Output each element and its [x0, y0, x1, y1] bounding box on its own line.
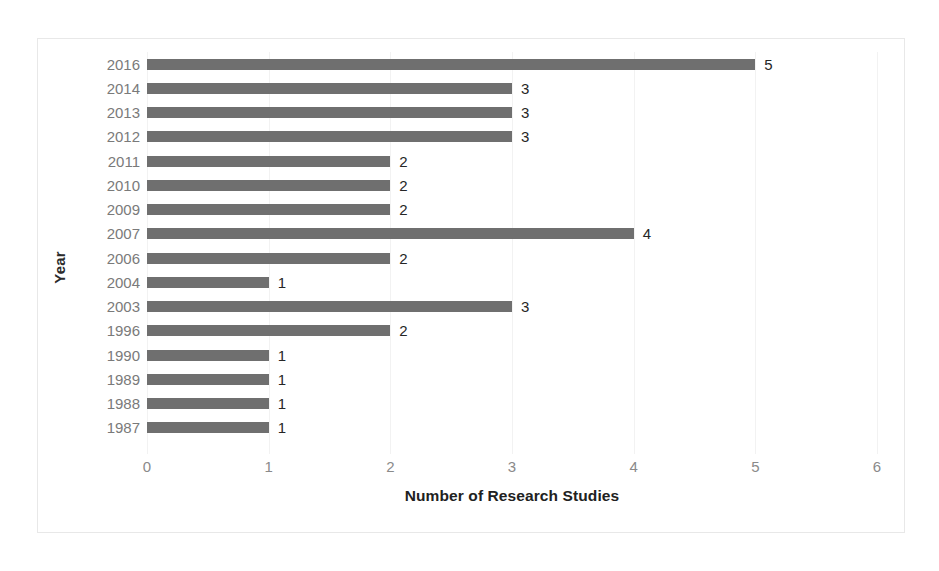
- bar-row: 2: [147, 149, 877, 173]
- y-tick-label: 2006: [60, 246, 140, 270]
- bar: [147, 107, 512, 118]
- bar-row: 1: [147, 392, 877, 416]
- bar-row: 3: [147, 76, 877, 100]
- bar-value-label: 2: [399, 202, 407, 217]
- bar: [147, 398, 269, 409]
- bar-value-label: 1: [278, 372, 286, 387]
- y-tick-label: 2007: [60, 222, 140, 246]
- y-tick-label: 2009: [60, 198, 140, 222]
- y-tick-label: 2016: [60, 52, 140, 76]
- bar-value-label: 3: [521, 81, 529, 96]
- y-tick-label: 2003: [60, 295, 140, 319]
- bar-row: 2: [147, 246, 877, 270]
- plot-area: 5333222421321111: [147, 52, 877, 454]
- bar-row: 2: [147, 173, 877, 197]
- bar-row: 2: [147, 198, 877, 222]
- bar-row: 3: [147, 101, 877, 125]
- bar-value-label: 3: [521, 105, 529, 120]
- bar: [147, 131, 512, 142]
- y-axis-tick-labels: 2016201420132012201120102009200720062004…: [60, 52, 140, 454]
- bar: [147, 83, 512, 94]
- x-axis-tick-labels: 0123456: [147, 458, 877, 482]
- y-tick-label: 2004: [60, 270, 140, 294]
- bar-row: 1: [147, 416, 877, 440]
- bar-value-label: 4: [643, 226, 651, 241]
- bar: [147, 156, 390, 167]
- bar: [147, 253, 390, 264]
- x-tick-label: 4: [614, 458, 654, 475]
- bar-row: 5: [147, 52, 877, 76]
- y-tick-label: 1990: [60, 343, 140, 367]
- bar-value-label: 2: [399, 154, 407, 169]
- x-tick-label: 1: [249, 458, 289, 475]
- bar: [147, 301, 512, 312]
- y-tick-label: 2011: [60, 149, 140, 173]
- bar-value-label: 1: [278, 348, 286, 363]
- bar-row: 3: [147, 295, 877, 319]
- x-tick-label: 0: [127, 458, 167, 475]
- bar: [147, 277, 269, 288]
- x-axis-title: Number of Research Studies: [147, 487, 877, 505]
- bar-row: 3: [147, 125, 877, 149]
- y-tick-label: 2010: [60, 173, 140, 197]
- bar-row: 1: [147, 343, 877, 367]
- x-tick-label: 3: [492, 458, 532, 475]
- y-tick-label: 1996: [60, 319, 140, 343]
- gridline-6: [877, 52, 878, 454]
- bar-value-label: 1: [278, 420, 286, 435]
- bar-row: 2: [147, 319, 877, 343]
- bar-row: 1: [147, 367, 877, 391]
- bar-value-label: 2: [399, 251, 407, 266]
- bar-row: 4: [147, 222, 877, 246]
- bar: [147, 325, 390, 336]
- x-tick-label: 6: [857, 458, 897, 475]
- y-tick-label: 1987: [60, 416, 140, 440]
- bar: [147, 180, 390, 191]
- bar-value-label: 2: [399, 323, 407, 338]
- bar-chart: Year 5333222421321111 201620142013201220…: [0, 0, 939, 571]
- x-tick-label: 5: [735, 458, 775, 475]
- bar: [147, 422, 269, 433]
- bar-value-label: 1: [278, 275, 286, 290]
- bar-value-label: 3: [521, 299, 529, 314]
- bar: [147, 204, 390, 215]
- y-tick-label: 1989: [60, 367, 140, 391]
- bar-value-label: 2: [399, 178, 407, 193]
- bar-value-label: 5: [764, 57, 772, 72]
- y-tick-label: 2013: [60, 101, 140, 125]
- bar-value-label: 1: [278, 396, 286, 411]
- x-tick-label: 2: [370, 458, 410, 475]
- y-tick-label: 1988: [60, 392, 140, 416]
- y-tick-label: 2014: [60, 76, 140, 100]
- bar: [147, 59, 755, 70]
- bar-row: 1: [147, 270, 877, 294]
- bar-value-label: 3: [521, 129, 529, 144]
- bar: [147, 350, 269, 361]
- bar-rows: 5333222421321111: [147, 52, 877, 454]
- y-tick-label: 2012: [60, 125, 140, 149]
- bar: [147, 374, 269, 385]
- bar: [147, 228, 634, 239]
